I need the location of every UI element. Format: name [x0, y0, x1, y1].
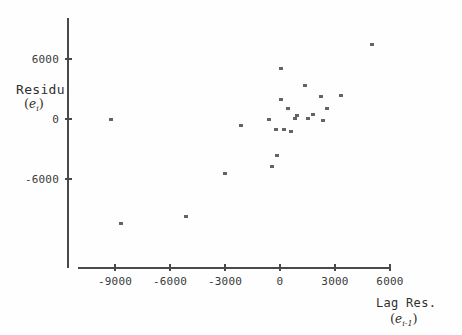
data-point	[279, 67, 283, 70]
data-point	[239, 124, 243, 127]
data-point	[267, 118, 271, 121]
x-axis-title-text: Lag Res.	[376, 296, 436, 310]
data-point	[295, 114, 299, 117]
data-point	[275, 154, 279, 157]
x-tick-label: 6000	[363, 276, 417, 287]
y-axis-title-text: Residu	[16, 82, 65, 97]
y-tick-mark	[65, 178, 72, 180]
data-point	[109, 118, 113, 121]
y-axis-title: Residu	[16, 82, 65, 97]
data-point	[325, 107, 329, 110]
x-tick-label: 3000	[308, 276, 362, 287]
x-tick-label: -3000	[198, 276, 252, 287]
data-point	[293, 117, 297, 120]
x-tick-label: -6000	[143, 276, 197, 287]
x-axis-sub-index: i-1	[402, 319, 412, 328]
data-point	[339, 94, 343, 97]
data-point	[270, 165, 274, 168]
data-point	[279, 98, 283, 101]
x-tick-label: -9000	[88, 276, 142, 287]
y-axis-line	[67, 18, 69, 268]
data-point	[319, 95, 323, 98]
x-axis-line	[78, 267, 391, 269]
x-tick-mark	[169, 264, 171, 271]
x-tick-mark	[334, 264, 336, 271]
data-point	[289, 130, 293, 133]
x-tick-mark	[389, 264, 391, 271]
data-point	[282, 128, 286, 131]
y-tick-label: 6000	[13, 54, 59, 65]
x-axis-title: Lag Res.	[376, 296, 436, 310]
y-tick-mark	[65, 58, 72, 60]
y-tick-mark	[65, 118, 72, 120]
data-point	[321, 119, 325, 122]
data-point	[223, 172, 227, 175]
x-tick-label: 0	[253, 276, 307, 287]
x-tick-mark	[114, 264, 116, 271]
data-point	[274, 128, 278, 131]
data-point	[306, 117, 310, 120]
scatter-plot-figure: 60000-6000 -9000-6000-3000030006000 Resi…	[0, 0, 462, 335]
y-axis-title-subscript: (ei)	[24, 97, 44, 116]
data-point	[303, 84, 307, 87]
x-tick-mark	[224, 264, 226, 271]
data-point	[370, 43, 374, 46]
x-tick-mark	[279, 264, 281, 271]
y-tick-label: -6000	[13, 174, 59, 185]
data-point	[119, 222, 123, 225]
x-axis-title-subscript: (ei-1)	[390, 312, 418, 331]
data-point	[184, 215, 188, 218]
data-point	[311, 113, 315, 116]
data-point	[286, 107, 290, 110]
